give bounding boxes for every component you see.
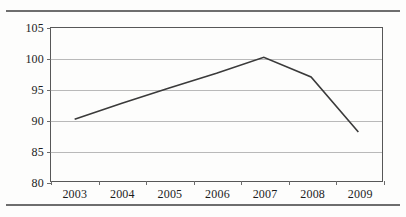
y-axis-label-105: 105 <box>25 22 44 34</box>
x-tick-edge-1 <box>384 181 385 185</box>
x-axis-label-2007: 2007 <box>253 188 278 200</box>
y-axis-label-80: 80 <box>32 177 44 189</box>
y-axis-label-100: 100 <box>25 53 44 65</box>
page-rule-top <box>6 10 400 12</box>
series-line-chart <box>51 28 382 181</box>
x-tick-edge-0 <box>51 181 52 185</box>
y-axis-label-95: 95 <box>32 84 44 96</box>
y-axis-label-90: 90 <box>32 115 44 127</box>
x-tick-4 <box>241 181 242 185</box>
x-tick-3 <box>194 181 195 185</box>
x-axis-label-2004: 2004 <box>110 188 135 200</box>
y-axis-label-85: 85 <box>32 146 44 158</box>
x-tick-2 <box>146 181 147 185</box>
x-axis-label-2003: 2003 <box>62 188 87 200</box>
x-axis-label-2005: 2005 <box>158 188 183 200</box>
x-axis-label-2006: 2006 <box>205 188 230 200</box>
x-axis-label-2009: 2009 <box>348 188 373 200</box>
page-rule-bottom <box>6 204 400 206</box>
figure-container: 80859095100105 2003200420052006200720082… <box>0 0 406 217</box>
x-tick-6 <box>336 181 337 185</box>
series-polyline <box>75 57 359 132</box>
x-tick-5 <box>289 181 290 185</box>
x-tick-1 <box>99 181 100 185</box>
x-axis-label-2008: 2008 <box>300 188 325 200</box>
plot-area: 80859095100105 2003200420052006200720082… <box>50 27 383 182</box>
